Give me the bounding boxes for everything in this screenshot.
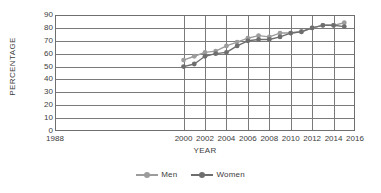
y-axis-tick-labels: 0102030405060708090	[22, 0, 53, 133]
legend-item-men[interactable]: Men	[136, 170, 177, 179]
x-axis-title-label: YEAR	[194, 146, 217, 155]
plot-svg	[55, 15, 355, 131]
data-point-women	[245, 38, 250, 43]
data-point-men	[192, 54, 197, 59]
data-point-women	[181, 64, 186, 69]
y-tick-label: 30	[31, 88, 53, 96]
legend-marker-icon	[136, 171, 158, 179]
data-point-women	[331, 23, 336, 28]
data-point-women	[278, 35, 283, 40]
data-point-women	[203, 54, 208, 59]
data-point-women	[299, 29, 304, 34]
data-point-women	[310, 25, 315, 30]
data-point-women	[267, 37, 272, 42]
data-point-women	[320, 23, 325, 28]
x-tick-label: 1988	[35, 134, 75, 143]
data-point-women	[224, 50, 229, 55]
line-chart: PERCENTAGE 0102030405060708090 198820002…	[0, 0, 381, 193]
y-tick-label: 50	[31, 63, 53, 71]
y-tick-label: 10	[31, 114, 53, 122]
data-point-women	[342, 24, 347, 29]
legend-label: Women	[216, 170, 244, 179]
y-axis-title: PERCENTAGE	[4, 0, 20, 133]
data-point-men	[181, 58, 186, 63]
chart-legend: MenWomen	[0, 170, 381, 179]
y-axis-title-label: PERCENTAGE	[8, 37, 17, 96]
legend-label: Men	[161, 170, 177, 179]
data-point-women	[288, 31, 293, 36]
x-axis-tick-labels: 1988200020022004200620082010201220142016	[0, 134, 381, 146]
plot-area	[55, 15, 355, 131]
y-tick-label: 80	[31, 24, 53, 32]
y-tick-label: 90	[31, 11, 53, 19]
x-axis-title: YEAR	[55, 146, 355, 155]
y-tick-label: 70	[31, 37, 53, 45]
data-point-women	[192, 62, 197, 67]
series-lines	[184, 23, 345, 67]
data-point-women	[256, 37, 261, 42]
legend-marker-icon	[191, 171, 213, 179]
legend-item-women[interactable]: Women	[191, 170, 244, 179]
grid-lines	[55, 15, 355, 131]
data-point-women	[235, 44, 240, 49]
x-tick-label: 2016	[335, 134, 375, 143]
y-tick-label: 60	[31, 50, 53, 58]
data-point-men	[224, 44, 229, 49]
data-point-women	[213, 51, 218, 56]
series-line-women	[184, 25, 345, 66]
y-tick-label: 20	[31, 101, 53, 109]
y-tick-label: 40	[31, 75, 53, 83]
